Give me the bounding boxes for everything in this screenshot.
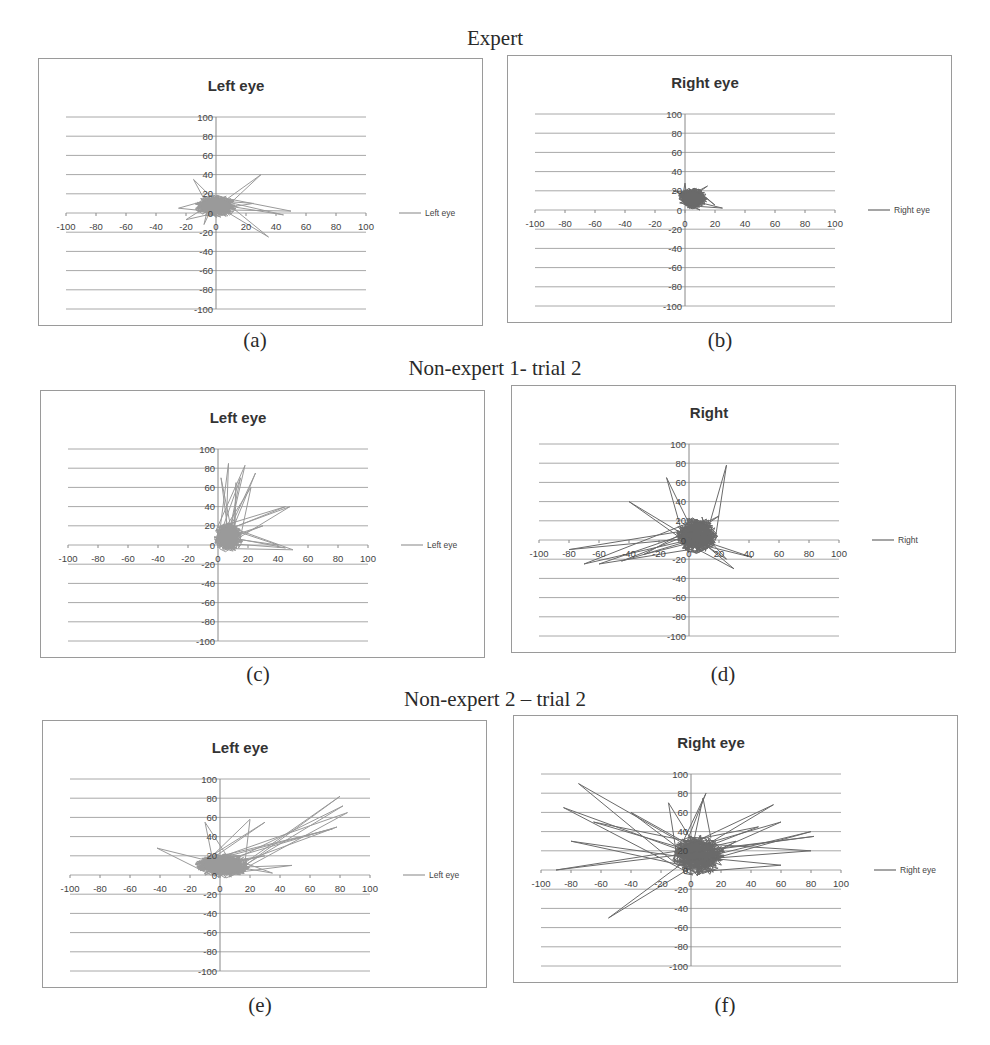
y-tick-label: -80: [668, 281, 682, 292]
row-heading-non-expert-2: Non-expert 2 – trial 2: [0, 687, 990, 712]
y-tick-label: -20: [672, 554, 686, 565]
caption-c: (c): [228, 662, 288, 687]
x-tick-label: 40: [271, 221, 282, 232]
chart-panel-c: Left eye100806040200-20-40-60-80-100-100…: [40, 390, 485, 658]
x-tick-label: 60: [774, 548, 785, 559]
y-tick-label: -80: [201, 616, 215, 627]
x-tick-label: 0: [213, 221, 218, 232]
x-tick-label: -100: [58, 553, 77, 564]
y-tick-label: 60: [675, 477, 686, 488]
y-tick-label: -80: [199, 284, 213, 295]
x-tick-label: 20: [716, 878, 727, 889]
x-tick-label: 20: [710, 218, 721, 229]
x-tick-label: 60: [770, 218, 781, 229]
y-tick-label: 0: [683, 865, 688, 876]
x-tick-label: -20: [183, 883, 197, 894]
y-tick-label: 20: [675, 515, 686, 526]
y-tick-label: -100: [194, 304, 213, 315]
chart-svg: Left eye100806040200-20-40-60-80-100-100…: [43, 721, 488, 989]
x-tick-label: -20: [652, 548, 666, 559]
legend-label: Right eye: [894, 205, 930, 215]
y-tick-label: 20: [206, 850, 217, 861]
chart-title: Right eye: [671, 74, 739, 91]
x-tick-label: -80: [93, 883, 107, 894]
x-tick-label: -20: [648, 218, 662, 229]
x-tick-label: 40: [740, 218, 751, 229]
y-tick-label: -20: [674, 884, 688, 895]
x-tick-label: -100: [56, 221, 75, 232]
x-tick-label: -20: [181, 553, 195, 564]
legend-label: Left eye: [425, 208, 456, 218]
x-tick-label: -80: [562, 548, 576, 559]
row-heading-non-expert-1: Non-expert 1- trial 2: [0, 356, 990, 381]
legend: Left eye: [401, 540, 458, 550]
chart-panel-a: Left eye100806040200-20-40-60-80-100-100…: [38, 58, 483, 326]
y-tick-label: 80: [675, 458, 686, 469]
y-tick-label: 0: [210, 540, 215, 551]
y-tick-label: 20: [671, 185, 682, 196]
x-tick-label: 40: [275, 883, 286, 894]
legend-label: Left eye: [427, 540, 458, 550]
y-tick-label: -80: [203, 946, 217, 957]
x-tick-label: 20: [714, 548, 725, 559]
y-tick-label: -40: [201, 578, 215, 589]
x-tick-label: 0: [215, 553, 220, 564]
y-tick-label: 20: [202, 188, 213, 199]
x-tick-label: -60: [119, 221, 133, 232]
y-tick-label: -60: [201, 597, 215, 608]
chart-panel-f: Right eye100806040200-20-40-60-80-100-10…: [513, 715, 958, 983]
y-tick-label: -60: [203, 927, 217, 938]
x-tick-label: 60: [776, 878, 787, 889]
x-tick-label: -80: [89, 221, 103, 232]
y-tick-label: 40: [671, 166, 682, 177]
legend-label: Right eye: [900, 865, 936, 875]
y-tick-label: -100: [196, 636, 215, 647]
y-tick-label: 40: [202, 169, 213, 180]
x-tick-label: 100: [827, 218, 843, 229]
y-tick-label: 60: [677, 807, 688, 818]
x-tick-label: -100: [531, 878, 550, 889]
x-tick-label: 20: [243, 553, 254, 564]
y-tick-label: 100: [201, 774, 217, 785]
y-tick-label: 40: [206, 831, 217, 842]
x-tick-label: -40: [618, 218, 632, 229]
y-tick-label: -40: [672, 573, 686, 584]
y-tick-label: 100: [670, 439, 686, 450]
x-tick-label: 0: [682, 218, 687, 229]
y-tick-label: 0: [208, 208, 213, 219]
legend-label: Left eye: [429, 870, 460, 880]
x-tick-label: -40: [153, 883, 167, 894]
y-tick-label: 80: [202, 131, 213, 142]
y-tick-label: -100: [669, 961, 688, 972]
x-tick-label: 40: [273, 553, 284, 564]
y-tick-label: -20: [668, 224, 682, 235]
y-tick-label: 60: [206, 812, 217, 823]
chart-title: Right eye: [677, 734, 745, 751]
x-tick-label: 60: [301, 221, 312, 232]
y-tick-label: -20: [203, 889, 217, 900]
y-tick-label: 80: [206, 793, 217, 804]
x-tick-label: -60: [123, 883, 137, 894]
chart-svg: Right100806040200-20-40-60-80-100-100-80…: [512, 386, 957, 654]
y-tick-label: 60: [671, 147, 682, 158]
x-tick-label: -100: [60, 883, 79, 894]
chart-svg: Right eye100806040200-20-40-60-80-100-10…: [514, 716, 959, 984]
caption-d: (d): [693, 662, 753, 687]
legend-label: Right: [898, 535, 918, 545]
y-tick-label: 80: [204, 463, 215, 474]
x-tick-label: 20: [241, 221, 252, 232]
x-tick-label: -80: [564, 878, 578, 889]
y-tick-label: 100: [199, 444, 215, 455]
y-tick-label: 40: [677, 826, 688, 837]
chart-title: Left eye: [212, 739, 269, 756]
y-tick-label: 40: [675, 496, 686, 507]
x-tick-label: 100: [358, 221, 374, 232]
y-tick-label: -40: [199, 246, 213, 257]
y-tick-label: -80: [672, 611, 686, 622]
chart-title: Right: [690, 404, 728, 421]
x-tick-label: -20: [179, 221, 193, 232]
x-tick-label: 0: [686, 548, 691, 559]
x-tick-label: 0: [217, 883, 222, 894]
x-tick-label: 80: [800, 218, 811, 229]
chart-title: Left eye: [210, 409, 267, 426]
